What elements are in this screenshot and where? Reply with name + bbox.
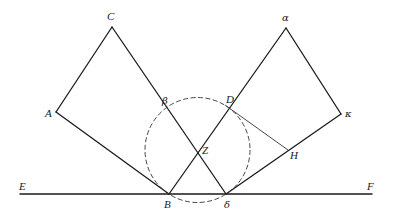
geometry-diagram: C α A κ β D Z H B δ E F [0,0,393,215]
label-E: E [18,180,26,192]
label-kappa: κ [344,108,352,119]
label-D: D [225,93,234,105]
label-alpha: α [282,12,289,23]
label-C: C [107,10,115,22]
line-AC [56,27,112,112]
label-B: B [164,198,171,210]
line-alpha-to-B [169,28,286,194]
label-delta: δ [224,199,230,210]
label-Z: Z [202,144,209,156]
dashed-circle [145,98,250,203]
label-A: A [44,107,52,119]
line-kappa-delta [226,114,341,194]
label-H: H [289,149,299,161]
line-alpha-kappa [286,28,341,114]
line-DH [225,105,288,150]
label-beta: β [161,95,168,106]
label-F: F [366,180,374,192]
line-C-to-delta [112,27,226,194]
